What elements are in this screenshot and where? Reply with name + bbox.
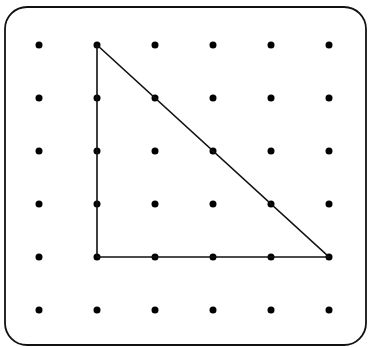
peg-dot — [36, 307, 43, 314]
right-triangle-shape — [97, 45, 329, 257]
geoboard-border — [5, 7, 366, 345]
peg-dot — [152, 42, 159, 49]
peg-dot — [268, 307, 275, 314]
peg-dot — [152, 201, 159, 208]
peg-dot — [326, 95, 333, 102]
peg-dot — [36, 201, 43, 208]
peg-dot — [326, 307, 333, 314]
peg-dot — [36, 42, 43, 49]
peg-dot — [210, 201, 217, 208]
peg-dot — [36, 254, 43, 261]
peg-dot — [94, 307, 101, 314]
peg-dot — [210, 95, 217, 102]
peg-dot — [326, 201, 333, 208]
peg-dot — [152, 148, 159, 155]
peg-dot — [210, 307, 217, 314]
peg-dot — [268, 148, 275, 155]
peg-dot — [268, 95, 275, 102]
peg-dot — [152, 307, 159, 314]
peg-dot — [326, 42, 333, 49]
peg-dot — [326, 148, 333, 155]
peg-dot — [36, 95, 43, 102]
peg-grid — [36, 42, 333, 314]
peg-dot — [210, 42, 217, 49]
geoboard-diagram — [0, 0, 391, 347]
peg-dot — [268, 42, 275, 49]
peg-dot — [36, 148, 43, 155]
